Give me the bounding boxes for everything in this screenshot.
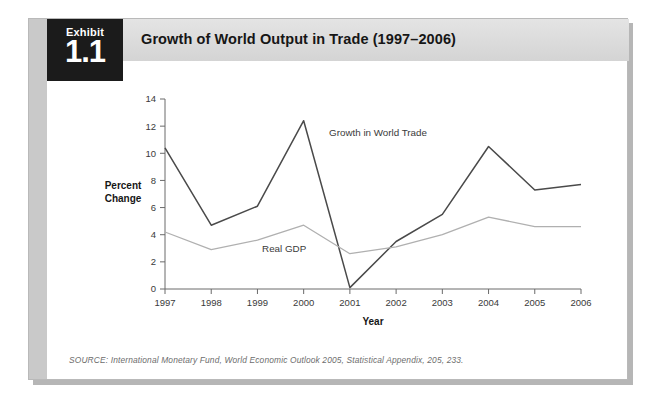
x-axis-tick-label: 2004 <box>478 297 499 308</box>
x-axis-tick-label: 2003 <box>432 297 453 308</box>
x-axis-tick-label: 1998 <box>201 297 222 308</box>
x-axis-tick-label: 1997 <box>154 297 175 308</box>
x-axis-tick-label: 1999 <box>247 297 268 308</box>
source-note: SOURCE: International Monetary Fund, Wor… <box>69 355 464 365</box>
exhibit-frame: Exhibit 1.1 Growth of World Output in Tr… <box>28 18 628 380</box>
x-axis-tick-label: 2002 <box>386 297 407 308</box>
x-axis-title: Year <box>362 316 383 327</box>
y-axis-tick-label: 12 <box>145 121 156 132</box>
series-line <box>165 217 581 254</box>
y-axis-tick-label: 0 <box>151 283 156 294</box>
y-axis-title-line: Change <box>105 193 142 204</box>
frame-shadow-bottom <box>33 380 633 385</box>
series-line <box>165 121 581 288</box>
chart-container: 0246810121419971998199920002001200220032… <box>47 81 629 343</box>
y-axis-title-line: Percent <box>105 180 142 191</box>
y-axis-tick-label: 14 <box>145 93 156 104</box>
y-axis-tick-label: 6 <box>151 202 156 213</box>
series-annotation-label: Growth in World Trade <box>329 127 427 138</box>
y-axis-tick-label: 10 <box>145 148 156 159</box>
page-title: Growth of World Output in Trade (1997–20… <box>141 31 456 47</box>
x-axis-tick-label: 2001 <box>339 297 360 308</box>
exhibit-badge-number: 1.1 <box>47 36 123 67</box>
y-axis-tick-label: 8 <box>151 175 156 186</box>
left-accent-band <box>29 19 47 379</box>
x-axis-tick-label: 2005 <box>524 297 545 308</box>
line-chart: 0246810121419971998199920002001200220032… <box>47 81 629 343</box>
x-axis-tick-label: 2000 <box>293 297 314 308</box>
series-annotation-label: Real GDP <box>262 243 307 254</box>
exhibit-number-badge: Exhibit 1.1 <box>47 19 123 81</box>
y-axis-tick-label: 4 <box>151 229 156 240</box>
x-axis-tick-label: 2006 <box>570 297 591 308</box>
y-axis-tick-label: 2 <box>151 256 156 267</box>
